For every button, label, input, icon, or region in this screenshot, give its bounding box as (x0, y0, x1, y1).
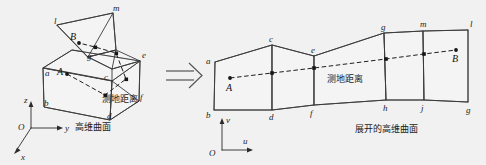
left-surface-group: A B a b c d e f g l m 测地距离 高维曲面 z y x O (14, 3, 146, 162)
label-vertex-g2: g (466, 105, 471, 115)
axis-label-u: u (243, 136, 248, 146)
axis-label-z: z (23, 95, 28, 105)
face-m-l-g-j (423, 30, 468, 102)
label-vertex-e: e (311, 45, 315, 55)
label-point-A: A (225, 82, 233, 93)
geodesic-node (312, 66, 316, 70)
axis-label-v: v (226, 115, 230, 125)
geodesic-label-left: 测地距离 (102, 93, 138, 104)
label-point-A: A (56, 66, 64, 77)
geodesic-node (270, 71, 274, 75)
caption-right: 展开的高维曲面 (355, 123, 418, 134)
label-vertex-l: l (470, 19, 473, 29)
label-vertex-g: g (87, 51, 92, 61)
axis-y-arrowhead (57, 126, 63, 131)
geodesic-label-right: 测地距离 (327, 73, 363, 84)
geodesic-unfolding-figure: A B a b c d e f g l m 测地距离 高维曲面 z y x O (0, 0, 486, 165)
label-vertex-f: f (140, 92, 144, 102)
label-point-B: B (452, 53, 458, 64)
geodesic-node (94, 46, 98, 50)
point-B-dot (454, 48, 458, 52)
label-vertex-m: m (113, 3, 120, 13)
axis-label-origin: O (209, 148, 216, 158)
geodesic-node (115, 52, 119, 56)
label-vertex-a: a (45, 68, 50, 78)
label-vertex-e: e (142, 50, 146, 60)
label-vertex-j: j (420, 103, 424, 113)
label-vertex-h: h (383, 103, 388, 113)
label-vertex-b: b (206, 110, 211, 120)
point-A-dot (228, 76, 232, 80)
axis-u-arrowhead (247, 148, 253, 153)
right-axes: v u O (209, 115, 253, 158)
label-vertex-d: d (269, 112, 274, 122)
axis-v-arrowhead (220, 118, 225, 124)
axis-label-x: x (20, 152, 25, 162)
geodesic-node (125, 78, 129, 82)
geodesic-node (422, 52, 426, 56)
axis-label-origin: O (18, 122, 25, 132)
geodesic-node (384, 57, 388, 61)
face-g-m-j-h (384, 31, 424, 100)
right-surface-group: A B a c e g m l b d f h j g 测地距离 展开的高维曲面… (206, 19, 473, 158)
label-vertex-a: a (206, 56, 211, 66)
transform-arrow (166, 63, 202, 88)
face-a-c-d-b (214, 45, 272, 110)
arrow-head (189, 63, 202, 88)
label-vertex-b: b (44, 98, 49, 108)
point-B-dot (77, 41, 81, 45)
axis-x-arrowhead (14, 148, 21, 154)
label-vertex-d: d (107, 111, 112, 121)
label-vertex-c: c (269, 34, 273, 44)
label-vertex-f: f (310, 108, 314, 118)
point-A-dot (65, 72, 69, 76)
axis-label-y: y (64, 123, 69, 133)
label-vertex-c: c (104, 72, 108, 82)
label-vertex-l: l (54, 16, 57, 26)
label-point-B: B (70, 31, 76, 42)
label-vertex-m: m (420, 19, 427, 29)
label-vertex-g: g (381, 22, 386, 32)
axis-z-arrowhead (29, 101, 34, 107)
caption-left: 高维曲面 (75, 121, 111, 132)
